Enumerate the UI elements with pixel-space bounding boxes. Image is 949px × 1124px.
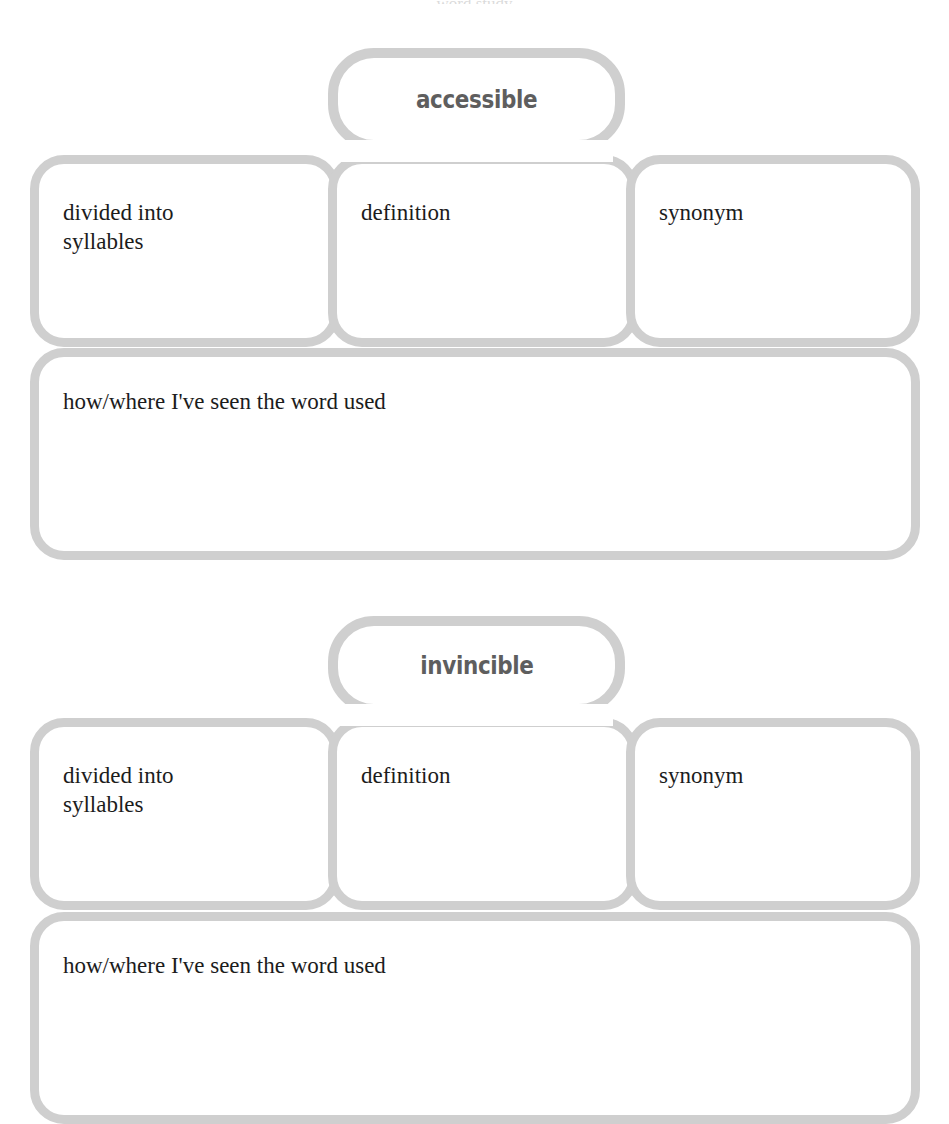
word-label: accessible xyxy=(416,87,537,112)
word-bubble[interactable]: accessible xyxy=(328,48,625,150)
word-label: invincible xyxy=(420,653,533,678)
column-synonym[interactable]: synonym xyxy=(626,718,920,910)
usage-prompt: how/where I've seen the word used xyxy=(63,387,386,416)
column-label: definition xyxy=(361,761,450,790)
word-organizer-2: invincible divided into syllables defini… xyxy=(0,568,949,1079)
word-bubble[interactable]: invincible xyxy=(328,616,625,714)
column-definition[interactable]: definition xyxy=(328,155,638,347)
usage-box[interactable]: how/where I've seen the word used xyxy=(30,912,920,1124)
category-row: divided into syllables definition synony… xyxy=(30,155,920,347)
column-label: divided into syllables xyxy=(63,761,174,820)
column-label: synonym xyxy=(659,761,743,790)
column-label: divided into syllables xyxy=(63,198,174,257)
column-definition[interactable]: definition xyxy=(328,718,638,910)
column-label: definition xyxy=(361,198,450,227)
category-row: divided into syllables definition synony… xyxy=(30,718,920,910)
column-divided-into-syllables[interactable]: divided into syllables xyxy=(30,718,340,910)
column-label: synonym xyxy=(659,198,743,227)
word-organizer-1: accessible divided into syllables defini… xyxy=(0,0,949,590)
column-divided-into-syllables[interactable]: divided into syllables xyxy=(30,155,340,347)
column-synonym[interactable]: synonym xyxy=(626,155,920,347)
usage-box[interactable]: how/where I've seen the word used xyxy=(30,348,920,560)
usage-prompt: how/where I've seen the word used xyxy=(63,951,386,980)
